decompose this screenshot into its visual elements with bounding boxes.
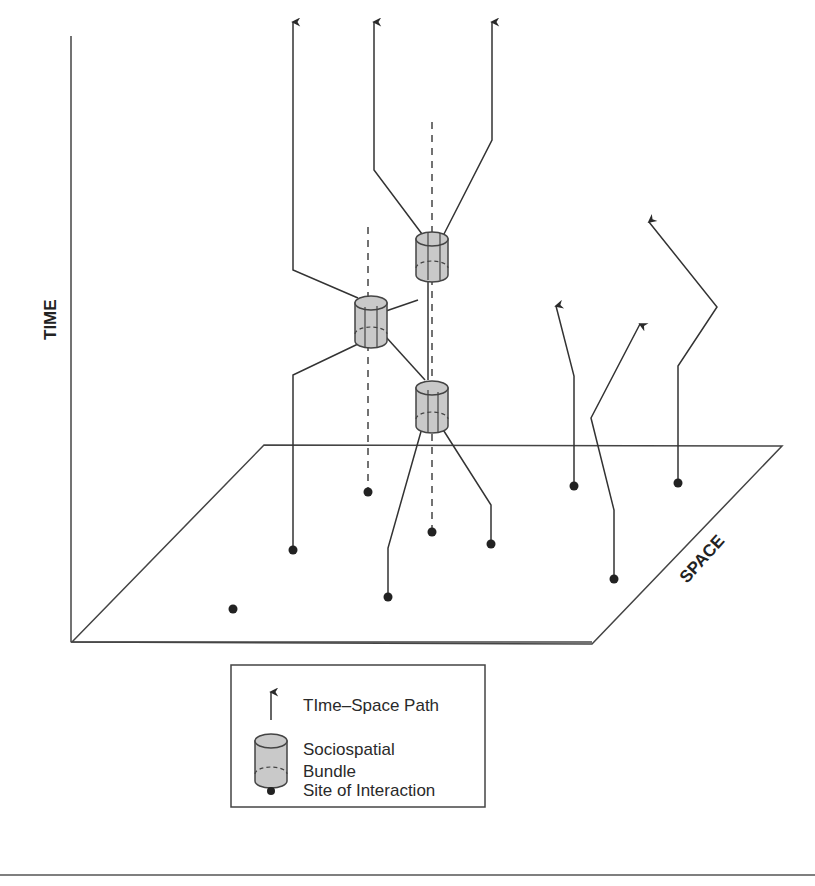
space-plane [72,445,782,644]
dot-icon [267,787,275,795]
site-of-interaction [364,488,373,497]
sociospatial-bundle [416,232,448,282]
time-space-path [386,337,425,380]
time-space-path [649,222,717,483]
site-of-interaction [229,605,238,614]
site-of-interaction [487,540,496,549]
time-space-path [293,344,358,549]
time-space-path [591,324,640,579]
site-of-interaction [610,575,619,584]
site-of-interaction [570,482,579,491]
time-space-path [293,22,358,298]
time-axis-label: TIME [41,299,60,340]
space-axis-label: SPACE [676,531,728,586]
cylinder-icon [255,734,287,788]
legend: TIme–Space Path Sociospatial Bundle Site… [231,665,485,807]
time-space-diagram: TIME SPACE [0,0,815,886]
time-space-path [444,22,492,234]
site-of-interaction [674,479,683,488]
site-of-interaction [428,528,437,537]
time-space-path [556,306,574,486]
site-of-interaction [289,546,298,555]
time-space-path [386,300,418,311]
time-space-path [374,22,422,234]
legend-label-path: TIme–Space Path [303,696,439,715]
legend-label-site: Site of Interaction [303,781,435,800]
site-of-interaction [384,593,393,602]
time-space-path [388,428,422,597]
sociospatial-bundle [355,296,387,348]
sociospatial-bundle [416,381,448,433]
legend-label-bundle-2: Bundle [303,762,356,781]
legend-label-bundle-1: Sociospatial [303,740,395,759]
